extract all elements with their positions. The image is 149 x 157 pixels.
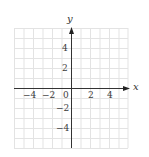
x-axis-label: x [133,82,139,92]
x-tick-label: 2 [88,91,94,100]
coordinate-grid [0,0,149,157]
y-tick-label: 2 [62,64,68,73]
y-tick-label: −4 [56,124,69,133]
x-axis-arrow-icon [123,86,130,91]
x-tick-label: 4 [107,91,113,100]
y-tick-label: 4 [62,44,68,53]
y-axis [69,27,74,148]
y-axis-label: y [67,14,73,24]
y-tick-label: −2 [56,104,69,113]
x-tick-label: −4 [23,91,36,100]
x-tick-label: −2 [42,91,55,100]
origin-label: 0 [63,91,69,100]
